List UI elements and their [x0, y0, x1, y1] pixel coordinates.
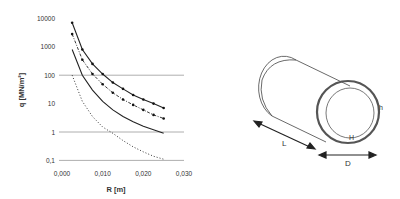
x-tick: 0,010 [95, 170, 112, 177]
x-tick: 0,030 [176, 170, 193, 177]
data-point [112, 92, 115, 95]
y-tick: 10 [48, 100, 56, 107]
cylinder-diagram: L D h H [200, 0, 400, 199]
data-point [122, 88, 125, 91]
series-lower-solid [72, 50, 164, 134]
data-point [112, 81, 115, 84]
data-point [91, 73, 94, 76]
inner-label: H [349, 134, 354, 141]
data-point [132, 104, 135, 107]
series-dotted [72, 75, 164, 159]
pressure-radius-chart: 1000010001001010,1 0,0000,0100,0200,030 … [0, 0, 200, 199]
data-point [142, 109, 145, 112]
y-tick: 100 [44, 72, 55, 79]
x-tick-labels: 0,0000,0100,0200,030 [54, 170, 193, 177]
data-point [71, 33, 74, 36]
length-label: L [282, 139, 287, 148]
y-tick: 1 [51, 129, 55, 136]
data-point [71, 21, 74, 24]
x-tick: 0,020 [135, 170, 152, 177]
x-tick: 0,000 [54, 170, 71, 177]
x-axis-label: R [m] [106, 185, 126, 194]
data-point [91, 63, 94, 66]
data-point [152, 114, 155, 117]
diameter-label: D [345, 159, 351, 168]
diameter-arrow [319, 152, 376, 158]
y-tick: 1000 [41, 43, 56, 50]
data-point [122, 98, 125, 101]
y-tick: 0,1 [46, 157, 55, 164]
inner-ring [326, 88, 374, 138]
data-point [101, 73, 104, 76]
data-series [71, 21, 165, 159]
data-point [81, 48, 84, 51]
data-point [132, 94, 135, 97]
data-point [101, 83, 104, 86]
data-point [142, 98, 145, 101]
data-point [152, 102, 155, 105]
thickness-label: h [379, 104, 383, 111]
data-point [162, 107, 165, 110]
series-dashdot-markers [72, 34, 164, 118]
y-tick-labels: 1000010001001010,1 [37, 15, 55, 164]
data-point [81, 58, 84, 61]
data-point [162, 117, 165, 120]
y-tick: 10000 [37, 15, 55, 22]
y-axis-label: q [MN/m²] [17, 72, 26, 107]
series-upper-solid-markers [72, 23, 164, 108]
